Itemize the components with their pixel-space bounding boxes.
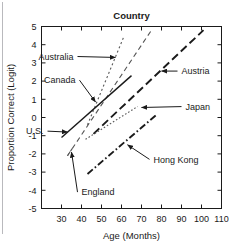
x-tick-label: 30 [56, 214, 66, 224]
series-line-australia [88, 37, 124, 124]
series-annotation-label: Hong Kong [154, 155, 199, 165]
annotation-arrow [142, 107, 182, 108]
series-annotation-label: Austria [182, 66, 210, 76]
x-tick-label: 80 [156, 214, 166, 224]
x-tick-label: 110 [214, 214, 228, 224]
y-tick-label: 0 [31, 113, 36, 123]
series-line-hong-kong [88, 114, 158, 174]
annotation-arrow [78, 57, 116, 58]
series-annotation-label: England [82, 187, 115, 197]
x-tick-label: 50 [96, 214, 106, 224]
series-group [62, 30, 204, 174]
y-tick-label: -5 [28, 204, 36, 214]
y-tick-label: 4 [31, 40, 36, 50]
annotation-arrow [128, 145, 150, 160]
y-tick-label: -2 [28, 149, 36, 159]
x-tick-label: 70 [136, 214, 146, 224]
series-line-austria [94, 30, 204, 134]
series-annotation-label: Canada [44, 75, 76, 85]
annotation-arrow [72, 152, 78, 192]
x-tick-label: 90 [176, 214, 186, 224]
y-tick-label: 3 [31, 58, 36, 68]
x-axis-title: Age (Months) [103, 230, 160, 241]
country-line-chart: 30405060708090100110-5-4-3-2-1012345 Aus… [0, 0, 243, 252]
series-annotation-label: Japan [186, 102, 211, 112]
y-tick-label: -3 [28, 167, 36, 177]
figure-canvas: 30405060708090100110-5-4-3-2-1012345 Aus… [0, 0, 243, 252]
series-line-canada [68, 30, 152, 156]
x-tick-label: 40 [76, 214, 86, 224]
series-annotation-label: Australia [38, 52, 73, 62]
y-axis-title: Proportion Correct (Logit) [5, 64, 16, 171]
y-tick-label: 2 [31, 76, 36, 86]
y-tick-label: 5 [31, 22, 36, 32]
x-tick-label: 60 [116, 214, 126, 224]
series-annotation-label: U.S. [26, 126, 44, 136]
x-tick-label: 100 [194, 214, 209, 224]
y-tick-label: 1 [31, 95, 36, 105]
annotation-arrow [80, 80, 96, 102]
annotation-arrow [48, 131, 68, 132]
chart-title: Country [113, 10, 150, 21]
y-tick-label: -4 [28, 186, 36, 196]
annotation-group: AustraliaCanadaU.S.AustriaJapanHong Kong… [26, 52, 210, 198]
